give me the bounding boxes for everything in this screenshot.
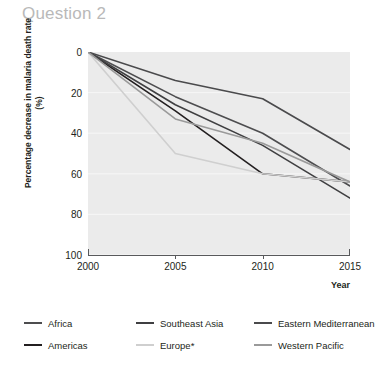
legend-line-swatch [24, 322, 42, 325]
x-axis-tick-label: 2005 [164, 261, 186, 272]
legend-line-swatch [254, 322, 272, 325]
x-axis-tick-mark [175, 255, 176, 259]
series-line [88, 52, 350, 186]
x-axis-tick-mark [88, 249, 89, 256]
legend-label: Europe* [160, 340, 194, 351]
x-axis-tick-label: 2000 [77, 261, 99, 272]
y-axis-tick-label: 40 [54, 128, 82, 139]
legend-item: Western Pacific [254, 340, 375, 351]
legend-item: Americas [24, 340, 136, 351]
y-axis-tick-labels: 020406080100 [52, 52, 82, 255]
legend-item: Eastern Mediterranean [254, 318, 375, 329]
x-axis-tick-label: 2015 [339, 261, 361, 272]
y-axis-tick-label: 60 [54, 168, 82, 179]
legend-line-swatch [254, 344, 272, 347]
legend-label: Africa [48, 318, 72, 329]
legend-label: Western Pacific [278, 340, 344, 351]
series-lines [88, 52, 350, 255]
plot-area [88, 52, 350, 255]
legend-item: Africa [24, 318, 136, 329]
legend-line-swatch [136, 322, 154, 325]
series-line [88, 52, 350, 149]
legend-item: Europe* [136, 340, 254, 351]
legend-line-swatch [136, 344, 154, 347]
y-axis-tick-label: 100 [54, 250, 82, 261]
x-axis-title: Year [331, 280, 350, 290]
series-line [88, 52, 350, 198]
legend-label: Eastern Mediterranean [278, 318, 375, 329]
x-axis-line [88, 255, 350, 256]
y-axis-tick-label: 0 [54, 47, 82, 58]
legend-line-swatch [24, 344, 42, 347]
x-axis-tick-mark [349, 249, 350, 256]
legend-label: Americas [48, 340, 88, 351]
x-axis-tick-mark [263, 255, 264, 259]
y-axis-tick-label: 80 [54, 209, 82, 220]
y-axis-title: Percentage decrease in malaria death rat… [23, 13, 45, 193]
y-axis-tick-label: 20 [54, 87, 82, 98]
chart-legend: AfricaSoutheast AsiaEastern Mediterranea… [24, 312, 364, 356]
malaria-death-rate-line-chart: Percentage decrease in malaria death rat… [0, 30, 382, 300]
legend-item: Southeast Asia [136, 318, 254, 329]
x-axis-tick-label: 2010 [252, 261, 274, 272]
legend-label: Southeast Asia [160, 318, 223, 329]
